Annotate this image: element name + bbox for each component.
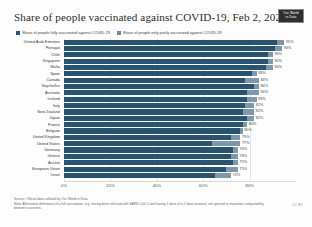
axis-baseline [64,181,296,182]
bar-value-label: 80% [247,122,256,127]
bar-row-label: New Zealand [0,109,60,115]
bar-row-label: France [0,122,60,128]
bar-value-label: 83% [257,97,266,102]
bar-track: 79% [64,135,296,140]
bar-row-label: United Arab Emirates [0,39,60,45]
bar-row-label: European Union [0,166,60,172]
bar-segment-fully[interactable] [64,147,233,152]
legend-item-partly[interactable]: Share of people only partly vaccinated a… [117,30,222,35]
bar-row-label: Australia [0,90,60,96]
bar-value-label: 95% [284,40,293,45]
bar-value-label: 84% [259,90,268,95]
bar-value-label: 76% [238,154,247,159]
bar-row-label: Portugal [0,45,60,51]
legend-swatch-icon [117,31,121,35]
bar-track: 90% [64,59,296,64]
bar-row-label: Japan [0,115,60,121]
bar-segment-partly[interactable] [277,40,284,45]
bar-segment-fully[interactable] [64,84,254,89]
bar-value-label: 83% [257,71,266,76]
note-text: Note: Alternative definitions of a full … [14,202,272,211]
bar-row-label: Malta [0,64,60,70]
bar-segment-fully[interactable] [64,46,275,51]
bar-row-label: Greece [0,153,60,159]
bar-segment-partly[interactable] [231,154,238,159]
legend-item-fully[interactable]: Share of people fully vaccinated against… [16,30,110,35]
bar-segment-fully[interactable] [64,103,245,108]
bar-track: 76% [64,147,296,152]
bar-row-label: Germany [0,147,60,153]
logo-line-2: in Data [279,16,303,20]
bar-segment-partly[interactable] [243,109,255,114]
bar-segment-fully[interactable] [64,173,215,178]
chart-legend: Share of people fully vaccinated against… [16,30,221,35]
bar-track: 84% [64,78,296,83]
bar-row[interactable]: Israel72% [0,172,312,178]
bar-segment-fully[interactable] [64,59,268,64]
bar-row-label: Italy [0,103,60,109]
bar-row-label: Austria [0,160,60,166]
bar-track: 82% [64,109,296,114]
bar-segment-partly[interactable] [212,141,240,146]
bar-segment-fully[interactable] [64,154,231,159]
bar-segment-fully[interactable] [64,71,252,76]
bar-track: 82% [64,103,296,108]
bar-segment-fully[interactable] [64,167,226,172]
bar-value-label: 75% [238,167,247,172]
bar-segment-fully[interactable] [64,52,268,57]
x-axis-tick: 60% [199,183,208,188]
bar-segment-fully[interactable] [64,116,247,121]
legend-label-fully: Share of people fully vaccinated against… [22,30,110,35]
bar-segment-fully[interactable] [64,78,245,83]
bar-segment-fully[interactable] [64,65,266,70]
bar-segment-fully[interactable] [64,97,247,102]
bar-track: 94% [64,46,296,51]
bar-segment-partly[interactable] [275,46,282,51]
page-title: Share of people vaccinated against COVID… [14,11,287,23]
bar-segment-fully[interactable] [64,135,231,140]
bar-segment-partly[interactable] [245,103,254,108]
bar-segment-fully[interactable] [64,122,243,127]
bar-track: 90% [64,52,296,57]
bar-value-label: 82% [254,103,263,108]
bar-value-label: 84% [259,84,268,89]
bar-segment-partly[interactable] [231,135,240,140]
bar-value-label: 75% [238,160,247,165]
bar-row-label: Canada [0,77,60,83]
bar-segment-fully[interactable] [64,90,247,95]
bar-track: 90% [64,65,296,70]
bar-row-label: Chile [0,52,60,58]
bar-value-label: 82% [254,109,263,114]
bar-row-label: Singapore [0,58,60,64]
bar-value-label: 76% [238,147,247,152]
owid-logo: Our World in Data [278,9,304,23]
bar-segment-partly[interactable] [226,167,238,172]
x-axis: 0%20%40%60%80% [64,183,296,193]
bar-track: 83% [64,97,296,102]
bar-segment-fully[interactable] [64,109,243,114]
bar-value-label: 72% [231,173,240,178]
bar-track: 72% [64,173,296,178]
bar-track: 80% [64,128,296,133]
bar-segment-partly[interactable] [215,173,231,178]
bar-segment-fully[interactable] [64,141,212,146]
chart-page: Share of people vaccinated against COVID… [0,0,312,227]
bar-value-label: 84% [259,78,268,83]
bar-row-label: United States [0,141,60,147]
bar-chart: United Arab Emirates95%Portugal94%Chile9… [0,39,312,181]
bar-value-label: 77% [240,141,249,146]
x-axis-tick: 0% [61,183,67,188]
x-axis-tick: 80% [245,183,254,188]
license-text: CC BY [292,203,303,207]
x-axis-tick: 20% [106,183,115,188]
bar-segment-partly[interactable] [247,97,256,102]
bar-segment-fully[interactable] [64,128,240,133]
bar-segment-fully[interactable] [64,160,233,165]
bar-segment-partly[interactable] [247,116,254,121]
bar-segment-partly[interactable] [245,78,259,83]
bar-segment-partly[interactable] [266,65,273,70]
bar-track: 82% [64,116,296,121]
bar-segment-partly[interactable] [247,90,259,95]
bar-segment-fully[interactable] [64,40,277,45]
bar-value-label: 90% [273,65,282,70]
